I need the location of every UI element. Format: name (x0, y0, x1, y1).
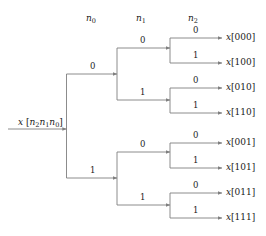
output-label-110: x[110] (226, 108, 255, 117)
branch-label-level3-1: 1 (193, 51, 198, 60)
branch-label-level2-0: 0 (140, 36, 145, 45)
column-header-n1-subscript: 1 (142, 17, 146, 25)
branch-label-level3-0: 0 (193, 26, 198, 35)
output-label-101: x[101] (226, 163, 255, 172)
level1-split (67, 74, 118, 178)
input-signal-label: x [n2n1n0] (18, 118, 63, 128)
output-label-001: x[001] (226, 138, 255, 147)
output-label-111: x[111] (226, 213, 255, 222)
output-label-000: x[000] (226, 33, 255, 42)
output-label-011: x[011] (226, 188, 255, 197)
output-index-100: [100] (231, 57, 255, 67)
output-label-100: x[100] (226, 58, 255, 67)
output-index-111: [111] (231, 212, 255, 222)
output-index-011: [011] (231, 187, 255, 197)
branch-label-level3-5: 1 (193, 156, 198, 165)
branch-label-level1-1: 1 (90, 166, 95, 175)
branch-label-level3-4: 0 (193, 131, 198, 140)
input-bracket-close: ] (59, 117, 63, 127)
branch-label-level3-2: 0 (193, 76, 198, 85)
output-index-101: [101] (231, 162, 255, 172)
branch-label-level1-0: 0 (90, 62, 95, 71)
output-index-000: [000] (231, 32, 255, 42)
output-index-010: [010] (231, 82, 255, 92)
column-header-n1: n1 (136, 14, 146, 24)
input-x-symbol: x (18, 117, 23, 127)
output-index-110: [110] (231, 107, 255, 117)
column-header-n2: n2 (188, 14, 198, 24)
binary-tree-diagram: n0 n1 n2 x [n2n1n0] 0 1 0 1 0 1 0 1 0 1 … (0, 0, 266, 236)
branch-label-level3-3: 1 (193, 101, 198, 110)
output-label-010: x[010] (226, 83, 255, 92)
column-header-n0-subscript: 0 (92, 17, 96, 25)
branch-label-level2-3: 1 (140, 193, 145, 202)
column-header-n2-subscript: 2 (194, 17, 198, 25)
branch-label-level3-7: 1 (193, 206, 198, 215)
output-index-001: [001] (231, 137, 255, 147)
branch-label-level2-1: 1 (140, 88, 145, 97)
branch-label-level3-6: 0 (193, 181, 198, 190)
branch-label-level2-2: 0 (140, 140, 145, 149)
column-header-n0: n0 (86, 14, 96, 24)
